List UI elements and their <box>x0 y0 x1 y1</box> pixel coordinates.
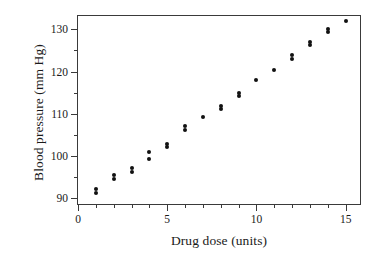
data-point <box>147 150 151 154</box>
x-axis-tick-minor <box>185 204 186 208</box>
scatter-plot-figure: Blood pressure (mm Hg) 90100110120130051… <box>0 0 379 262</box>
y-axis-tick-label: 100 <box>51 150 68 162</box>
y-axis-tick-major <box>71 72 78 73</box>
x-axis-tick-minor <box>274 204 275 208</box>
data-point <box>272 68 276 72</box>
x-axis-tick-minor <box>203 204 204 208</box>
data-point <box>201 115 205 119</box>
plot-frame: 90100110120130051015 <box>77 15 361 205</box>
x-axis-tick-minor <box>96 204 97 208</box>
y-axis-title: Blood pressure (mm Hg) <box>26 10 52 215</box>
data-point <box>237 91 241 95</box>
y-axis-tick-minor <box>74 50 78 51</box>
x-axis-tick-major <box>78 204 79 211</box>
x-axis-tick-minor <box>292 204 293 208</box>
data-point <box>94 191 98 195</box>
plot-data-area <box>78 16 360 204</box>
y-axis-tick-minor <box>74 177 78 178</box>
x-axis-tick-minor <box>149 204 150 208</box>
x-axis-tick-minor <box>239 204 240 208</box>
x-axis-title: Drug dose (units) <box>77 233 361 249</box>
y-axis-tick-major <box>71 114 78 115</box>
data-point <box>308 43 312 47</box>
x-axis-tick-label: 15 <box>340 213 352 225</box>
y-axis-tick-label: 90 <box>57 192 69 204</box>
data-point <box>254 78 258 82</box>
y-axis-tick-label: 110 <box>51 108 68 120</box>
y-axis-tick-major <box>71 29 78 30</box>
x-axis-tick-minor <box>328 204 329 208</box>
y-axis-tick-minor <box>74 135 78 136</box>
x-axis-tick-minor <box>132 204 133 208</box>
y-axis-tick-minor <box>74 93 78 94</box>
data-point <box>112 177 116 181</box>
data-point <box>147 157 151 161</box>
y-axis-tick-major <box>71 156 78 157</box>
data-point <box>183 128 187 132</box>
data-point <box>290 53 294 57</box>
x-axis-tick-label: 5 <box>164 213 170 225</box>
data-point <box>326 27 330 31</box>
y-axis-tick-label: 120 <box>51 66 68 78</box>
data-point <box>290 57 294 61</box>
x-axis-tick-major <box>346 204 347 211</box>
data-point <box>183 124 187 128</box>
x-axis-tick-minor <box>221 204 222 208</box>
x-axis-tick-minor <box>114 204 115 208</box>
data-point <box>219 104 223 108</box>
x-axis-tick-label: 10 <box>251 213 263 225</box>
data-point <box>130 166 134 170</box>
x-axis-tick-major <box>167 204 168 211</box>
y-axis-tick-label: 130 <box>51 23 68 35</box>
y-axis-tick-major <box>71 198 78 199</box>
data-point <box>344 19 348 23</box>
x-axis-tick-label: 0 <box>75 213 81 225</box>
x-axis-tick-minor <box>310 204 311 208</box>
data-point <box>130 170 134 174</box>
x-axis-tick-major <box>256 204 257 211</box>
